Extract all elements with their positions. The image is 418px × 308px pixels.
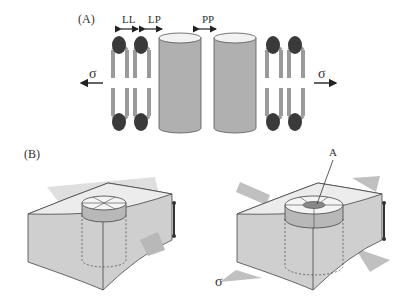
lipid-1 <box>112 36 127 131</box>
lipid-4 <box>288 36 303 131</box>
lipid-2 <box>134 36 149 131</box>
stress-label-right: σ <box>318 66 326 82</box>
stress-label-b: σ <box>215 274 223 290</box>
protein-cylinder-2 <box>214 33 256 133</box>
spacing-label-pp: PP <box>202 13 214 25</box>
stress-label-left: σ <box>89 66 97 82</box>
panel-b-label: (B) <box>24 147 40 162</box>
spacing-label-ll: LL <box>122 13 135 25</box>
lipid-group-left <box>112 36 149 131</box>
diagram-canvas <box>0 0 418 308</box>
lipid-group-right <box>266 36 303 131</box>
membrane-block-stretched <box>220 160 390 290</box>
membrane-block-relaxed <box>28 177 176 290</box>
protein-cylinder-1 <box>159 33 201 133</box>
panel-a-label: (A) <box>78 12 95 27</box>
spacing-label-lp: LP <box>148 13 161 25</box>
lipid-3 <box>266 36 281 131</box>
annotation-a-label: A <box>329 146 337 158</box>
